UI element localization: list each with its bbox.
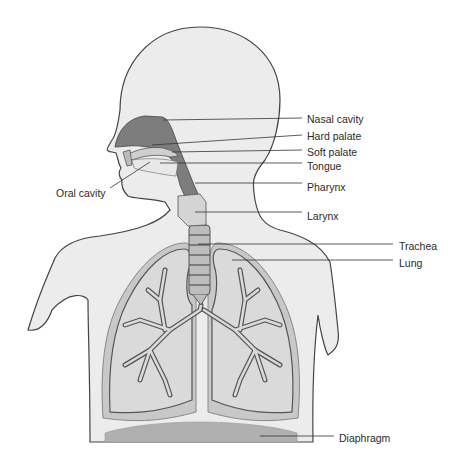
respiratory-diagram xyxy=(0,0,463,471)
label-lung: Lung xyxy=(399,257,422,269)
label-diaphragm: Diaphragm xyxy=(339,432,390,444)
label-tongue: Tongue xyxy=(307,160,341,172)
label-trachea: Trachea xyxy=(399,240,437,252)
label-pharynx: Pharynx xyxy=(307,181,346,193)
trachea-shape xyxy=(189,225,210,305)
label-nasal-cavity: Nasal cavity xyxy=(307,113,364,125)
label-soft-palate: Soft palate xyxy=(307,146,357,158)
label-oral-cavity: Oral cavity xyxy=(56,187,106,199)
label-larynx: Larynx xyxy=(307,210,339,222)
label-hard-palate: Hard palate xyxy=(307,130,361,142)
